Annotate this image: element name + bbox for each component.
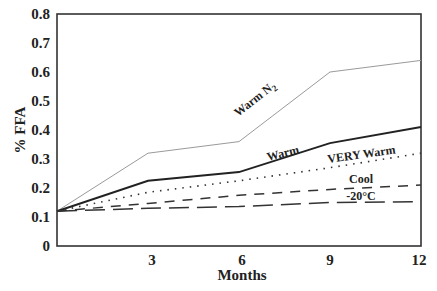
y-tick: 0.4	[31, 122, 50, 138]
plot-frame	[57, 14, 421, 246]
y-tick: 0.3	[31, 151, 50, 167]
series-label-minus20c: -20°C	[346, 189, 375, 203]
y-axis-ticks: 0 0.1 0.2 0.3 0.4 0.5 0.6 0.7 0.8	[31, 6, 50, 254]
x-tick: 12	[412, 252, 427, 268]
y-tick: 0.7	[31, 35, 50, 51]
y-axis-title: % FFA	[12, 106, 28, 153]
y-tick: 0.5	[31, 93, 50, 109]
x-tick: 6	[238, 252, 246, 268]
series-label-warm-n2: Warm N2	[231, 78, 280, 121]
series-label-warm: Warm	[265, 142, 300, 163]
y-tick: 0.8	[31, 6, 50, 22]
ffa-line-chart: 0 0.1 0.2 0.3 0.4 0.5 0.6 0.7 0.8 % FFA …	[0, 0, 437, 291]
x-axis-ticks: 3 6 9 12	[148, 252, 426, 268]
y-tick: 0.2	[31, 180, 50, 196]
series-label-cool: Cool	[349, 172, 374, 186]
x-tick: 3	[148, 252, 156, 268]
x-tick: 9	[326, 252, 334, 268]
y-tick: 0.1	[31, 209, 50, 225]
x-axis-title: Months	[217, 267, 266, 283]
y-tick: 0.6	[31, 64, 50, 80]
y-tick: 0	[43, 238, 51, 254]
